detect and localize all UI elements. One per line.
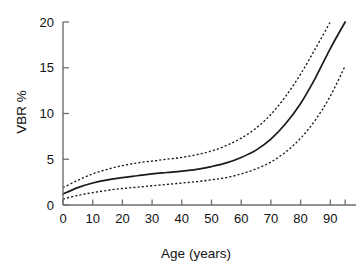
y-tick-label-15: 15: [40, 60, 54, 75]
x-tick-label-10: 10: [85, 211, 99, 226]
x-tick-label-30: 30: [145, 211, 159, 226]
x-axis-title: Age (years): [161, 246, 231, 261]
chart-figure: 0102030405060708090 05101520 Age (years)…: [0, 0, 364, 272]
x-tick-label-70: 70: [264, 211, 278, 226]
y-tick-label-5: 5: [47, 152, 54, 167]
x-tick-label-60: 60: [234, 211, 248, 226]
x-tick-label-20: 20: [115, 211, 129, 226]
chart-background: [0, 0, 364, 272]
x-tick-label-40: 40: [175, 211, 189, 226]
x-tick-label-90: 90: [323, 211, 337, 226]
x-tick-label-80: 80: [293, 211, 307, 226]
x-tick-label-0: 0: [59, 211, 66, 226]
y-tick-label-0: 0: [47, 198, 54, 213]
y-tick-label-20: 20: [40, 15, 54, 30]
y-axis-title: VBR %: [14, 90, 29, 134]
vbr-vs-age-line-chart: 0102030405060708090 05101520 Age (years)…: [0, 0, 364, 272]
x-tick-label-50: 50: [204, 211, 218, 226]
y-tick-label-10: 10: [40, 106, 54, 121]
